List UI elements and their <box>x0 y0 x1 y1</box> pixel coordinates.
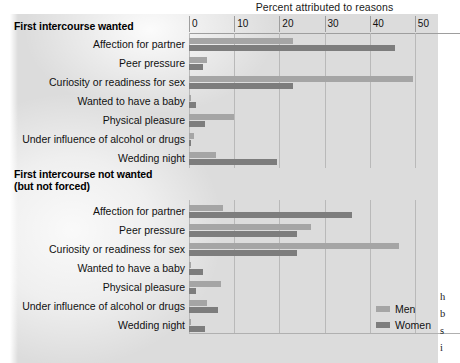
bar-women <box>189 269 203 275</box>
bar-women <box>189 64 203 70</box>
category-label: Affection for partner <box>93 39 185 50</box>
x-tick-mark-40 <box>370 16 371 32</box>
bar-men <box>189 243 399 249</box>
bar-men <box>189 38 293 44</box>
legend-swatch-men-icon <box>376 306 390 312</box>
legend: Men Women <box>376 303 431 335</box>
category-label: Wanted to have a baby <box>77 96 185 107</box>
bar-women <box>189 307 218 313</box>
bar-men <box>189 281 221 287</box>
bar-men <box>189 262 191 268</box>
category-label: Wedding night <box>118 320 185 331</box>
chart-figure: Percent attributed to reasons 0102030405… <box>0 0 460 363</box>
x-tick-label-10: 10 <box>237 18 248 29</box>
bar-men <box>189 133 194 139</box>
bar-women <box>189 121 205 127</box>
x-tick-mark-50 <box>415 16 416 32</box>
bar-women <box>189 102 196 108</box>
category-label: Under influence of alcohol or drugs <box>22 134 185 145</box>
x-tick-label-50: 50 <box>418 18 429 29</box>
gridline-10 <box>234 200 235 333</box>
category-label: Peer pressure <box>119 225 185 236</box>
bar-women <box>189 159 277 165</box>
x-tick-label-0: 0 <box>192 18 198 29</box>
legend-label-women: Women <box>395 319 431 331</box>
bar-women <box>189 45 395 51</box>
plot-area-wanted <box>189 33 460 168</box>
section-title-not-wanted-line2: (but not forced) <box>14 180 152 192</box>
gridline-30 <box>325 33 326 168</box>
bar-women <box>189 231 297 237</box>
x-tick-mark-0 <box>189 16 190 32</box>
bar-men <box>189 205 223 211</box>
x-tick-mark-20 <box>279 16 280 32</box>
bar-women <box>189 250 297 256</box>
axis-title: Percent attributed to reasons <box>189 1 460 13</box>
gridline-20 <box>279 33 280 168</box>
bar-men <box>189 152 216 158</box>
category-label: Wanted to have a baby <box>77 263 185 274</box>
edge-text-line: i <box>440 339 458 356</box>
page-edge-text-fragment: hbsi <box>440 288 458 356</box>
gridline-10 <box>234 33 235 168</box>
bar-men <box>189 114 234 120</box>
edge-text-line: s <box>440 322 458 339</box>
category-label: Under influence of alcohol or drugs <box>22 301 185 312</box>
bar-men <box>189 300 207 306</box>
edge-text-line: h <box>440 288 458 305</box>
bar-women <box>189 326 205 332</box>
gridline-20 <box>279 200 280 333</box>
legend-item-men: Men <box>376 303 431 315</box>
x-tick-label-20: 20 <box>282 18 293 29</box>
bar-women <box>189 212 352 218</box>
legend-item-women: Women <box>376 319 431 331</box>
bar-men <box>189 224 311 230</box>
category-label: Physical pleasure <box>103 115 185 126</box>
bar-women <box>189 140 191 146</box>
edge-text-line: b <box>440 305 458 322</box>
section-title-not-wanted-line1: First intercourse not wanted <box>14 168 152 180</box>
category-label: Curiosity or readiness for sex <box>49 77 185 88</box>
bar-men <box>189 95 191 101</box>
legend-label-men: Men <box>395 303 415 315</box>
section-title-wanted: First intercourse wanted <box>14 20 134 32</box>
gridline-50 <box>415 33 416 168</box>
category-label: Physical pleasure <box>103 282 185 293</box>
x-tick-mark-30 <box>325 16 326 32</box>
gridline-30 <box>325 200 326 333</box>
x-tick-label-30: 30 <box>328 18 339 29</box>
category-label: Affection for partner <box>93 206 185 217</box>
bar-men <box>189 76 413 82</box>
bar-men <box>189 319 191 325</box>
x-tick-label-40: 40 <box>373 18 384 29</box>
legend-swatch-women-icon <box>376 322 390 328</box>
x-tick-mark-10 <box>234 16 235 32</box>
category-label: Peer pressure <box>119 58 185 69</box>
bar-women <box>189 288 196 294</box>
gridline-40 <box>370 33 371 168</box>
bar-women <box>189 83 293 89</box>
bar-men <box>189 57 207 63</box>
gridline-40 <box>370 200 371 333</box>
category-label: Curiosity or readiness for sex <box>49 244 185 255</box>
section-title-not-wanted: First intercourse not wanted (but not fo… <box>14 168 152 192</box>
category-label: Wedding night <box>118 153 185 164</box>
